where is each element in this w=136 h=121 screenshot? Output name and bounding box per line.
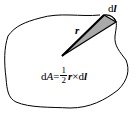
r-label: r — [75, 24, 79, 36]
fraction-denominator: 2 — [61, 76, 66, 85]
closed-curve-boundary — [5, 15, 128, 108]
radius-vector — [62, 15, 104, 56]
dl-label: dl — [108, 2, 117, 14]
formula-dl-l: l — [84, 70, 87, 82]
formula-fraction: 1 2 — [60, 66, 67, 85]
area-formula: dA= 1 2 r×dl — [41, 66, 87, 85]
area-sector — [62, 15, 116, 56]
formula-equals: = — [53, 70, 59, 82]
formula-A: A — [47, 70, 54, 82]
diagram-canvas — [0, 0, 136, 121]
dl-l: l — [114, 2, 117, 14]
